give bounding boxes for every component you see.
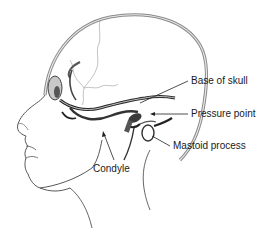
anatomy-diagram: Base of skull Pressure point Mastoid pro… bbox=[0, 0, 270, 230]
label-pressure-point: Pressure point bbox=[191, 108, 255, 120]
leader-line-condyle bbox=[104, 134, 114, 160]
skull-outline bbox=[45, 15, 207, 160]
face-profile bbox=[17, 95, 150, 228]
condyle-joint bbox=[124, 111, 143, 160]
leader-line-mastoid-process bbox=[152, 136, 170, 146]
label-mastoid-process: Mastoid process bbox=[173, 140, 246, 152]
label-base-of-skull: Base of skull bbox=[191, 75, 248, 87]
leader-line-base-of-skull bbox=[140, 81, 188, 103]
label-condyle: Condyle bbox=[93, 163, 130, 175]
mastoid-process-bone bbox=[140, 118, 172, 141]
